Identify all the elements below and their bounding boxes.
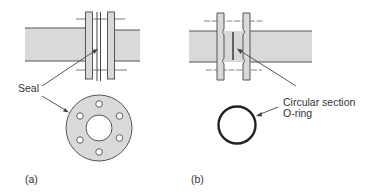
seal-label: Seal	[18, 83, 39, 94]
bolt-hole	[77, 137, 84, 144]
bolt-hole	[116, 113, 123, 120]
left-flange-a	[86, 12, 93, 79]
panel-b-oring-joint	[189, 13, 312, 144]
right-flange-a	[108, 12, 115, 79]
right-flange-b	[243, 13, 250, 80]
right-pipe-a	[115, 30, 140, 61]
left-pipe-a	[25, 28, 85, 61]
bolt-hole	[96, 149, 103, 156]
left-pipe-b	[189, 31, 217, 62]
bolt-hole	[116, 135, 123, 142]
seal-leader-bottom	[42, 96, 67, 111]
right-pipe-b	[250, 31, 312, 62]
gasket-disc	[66, 95, 132, 161]
oring-circle	[219, 107, 256, 144]
panel-a-flange-joint	[25, 12, 140, 161]
panel-a-label: (a)	[25, 174, 38, 185]
bolt-hole	[96, 101, 103, 108]
panel-b-label: (b)	[191, 174, 204, 185]
oring-label-line2: O-ring	[283, 108, 312, 119]
bolt-hole	[77, 113, 84, 120]
left-flange-b	[217, 13, 224, 80]
